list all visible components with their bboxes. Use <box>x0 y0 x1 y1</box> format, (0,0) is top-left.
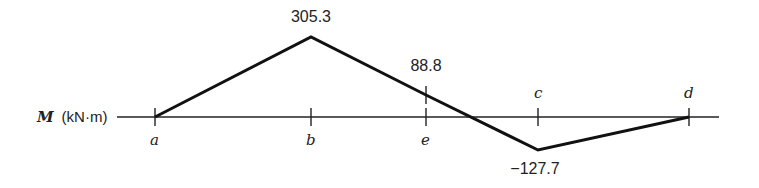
axis-units: (kN·m) <box>62 108 108 125</box>
axis-symbol: M <box>36 108 54 126</box>
value-label-b: 305.3 <box>291 8 331 25</box>
point-label-a: a <box>150 131 159 149</box>
moment-diagram: M (kN·m) a b e c d 305.3 88.8 −127.7 <box>0 0 759 188</box>
value-label-c: −127.7 <box>510 160 559 177</box>
axis-label: M (kN·m) <box>36 108 107 126</box>
value-label-e: 88.8 <box>410 57 441 74</box>
point-label-e: e <box>421 131 430 149</box>
point-label-b: b <box>306 131 316 149</box>
point-label-c: c <box>534 84 543 102</box>
point-label-d: d <box>684 84 694 102</box>
